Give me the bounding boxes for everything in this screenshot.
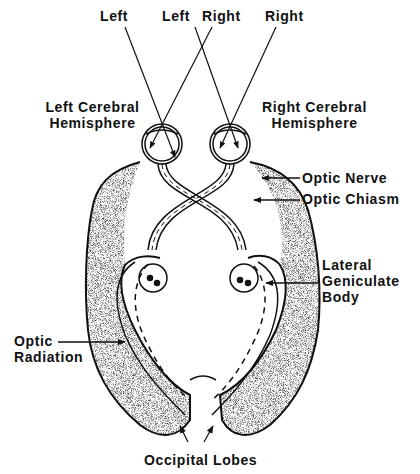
- label-left-cerebral-hemisphere: Left Cerebral Hemisphere: [35, 99, 150, 131]
- label-optic-nerve: Optic Nerve: [302, 170, 387, 186]
- lateral-geniculate-bodies: [139, 264, 258, 292]
- optic-nerves-chiasm: [148, 164, 246, 250]
- label-left-right-left: Left: [162, 8, 190, 24]
- light-rays: [125, 27, 276, 157]
- label-right-field: Right: [265, 8, 304, 24]
- visual-pathway-diagram: Left Left Right Right Left Cerebral Hemi…: [0, 0, 420, 474]
- diagram-drawing: [0, 0, 420, 474]
- label-right-cerebral-hemisphere: Right Cerebral Hemisphere: [252, 99, 377, 131]
- label-right-hemisphere-line2: Hemisphere: [252, 115, 377, 131]
- label-left-field: Left: [100, 8, 128, 24]
- label-lgb-line3: Body: [322, 289, 400, 305]
- label-optic-radiation-line2: Radiation: [14, 349, 83, 365]
- label-right-hemisphere-line1: Right Cerebral: [252, 99, 377, 115]
- left-hemisphere-outline: [86, 162, 190, 435]
- label-optic-radiation-line1: Optic: [14, 333, 83, 349]
- label-left-right-right: Right: [202, 8, 241, 24]
- right-eye: [210, 124, 250, 164]
- label-optic-radiation: Optic Radiation: [14, 333, 83, 365]
- label-lateral-geniculate-body: Lateral Geniculate Body: [322, 257, 400, 305]
- label-lgb-line1: Lateral: [322, 257, 400, 273]
- label-left-hemisphere-line2: Hemisphere: [35, 115, 150, 131]
- label-occipital-lobes: Occipital Lobes: [144, 452, 257, 468]
- label-lgb-line2: Geniculate: [322, 273, 400, 289]
- label-left-hemisphere-line1: Left Cerebral: [35, 99, 150, 115]
- label-optic-chiasm: Optic Chiasm: [302, 191, 399, 207]
